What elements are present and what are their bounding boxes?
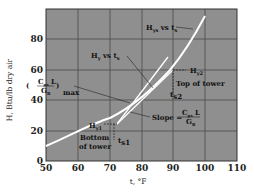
- bottom-label-1: Bottom: [80, 133, 110, 142]
- svg-text:20: 20: [30, 126, 43, 136]
- svg-text:90: 90: [167, 163, 180, 173]
- top-of-tower-label: Top of tower: [176, 79, 225, 88]
- svg-text:70: 70: [104, 163, 117, 173]
- chart: 506070 8090100110 806040 200 t, °F H, Bt…: [0, 0, 254, 195]
- svg-text:0: 0: [37, 156, 43, 166]
- y-axis-label: H, Btu/lb dry air: [5, 58, 14, 121]
- svg-text:60: 60: [72, 163, 85, 173]
- max-ratio-label: (: [26, 81, 29, 90]
- x-axis-label: t, °F: [130, 177, 147, 186]
- svg-text:80: 80: [136, 163, 149, 173]
- svg-text:max: max: [63, 88, 80, 97]
- svg-text:40: 40: [30, 95, 43, 105]
- svg-text:): ): [56, 81, 59, 90]
- slope-label: Slope =: [152, 113, 182, 122]
- bottom-label-2: of tower: [79, 142, 111, 151]
- svg-text:110: 110: [228, 163, 247, 173]
- svg-text:80: 80: [30, 34, 43, 44]
- svg-text:100: 100: [196, 163, 215, 173]
- svg-text:60: 60: [30, 65, 43, 75]
